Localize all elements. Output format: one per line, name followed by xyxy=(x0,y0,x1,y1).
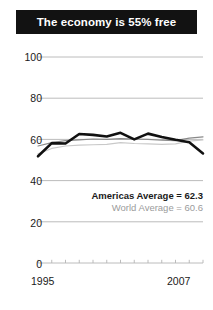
y-axis-tick-20: 20 xyxy=(8,218,42,229)
y-axis-tick-40: 40 xyxy=(8,176,42,187)
y-axis-tick-100: 100 xyxy=(8,52,42,63)
series-line-country xyxy=(38,133,203,156)
y-axis-tick-60: 60 xyxy=(8,135,42,146)
series-line-world-average xyxy=(38,140,203,154)
legend-item-americas-average: Americas Average = 62.3 xyxy=(91,190,203,202)
y-axis-tick-80: 80 xyxy=(8,93,42,104)
chart-figure: The economy is 55% free 100 80 60 40 20 … xyxy=(0,0,213,310)
y-axis-tick-0: 0 xyxy=(8,259,42,270)
legend-item-world-average: World Average = 60.6 xyxy=(91,202,203,214)
legend: Americas Average = 62.3 World Average = … xyxy=(91,190,203,214)
x-axis-tick-start: 1995 xyxy=(31,276,54,287)
x-axis-tick-end: 2007 xyxy=(167,276,190,287)
